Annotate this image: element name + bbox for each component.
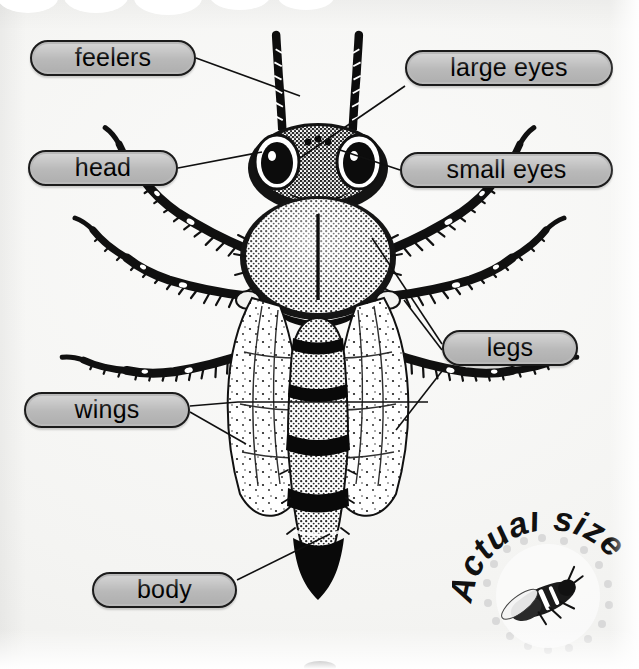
label-feelers[interactable]: feelers	[30, 40, 196, 76]
label-large-eyes-text: large eyes	[450, 55, 567, 80]
bee-diagram-page: feelers head large eyes small eyes legs …	[0, 0, 639, 669]
label-small-eyes[interactable]: small eyes	[400, 152, 613, 188]
leader-small-eyes	[340, 150, 400, 170]
right-edge-highlight	[609, 0, 639, 669]
leader-head	[178, 152, 262, 168]
leader-large-eyes	[300, 86, 405, 158]
label-legs-text: legs	[487, 335, 534, 360]
leader-wings-a	[190, 402, 428, 406]
label-body-text: body	[137, 577, 192, 602]
label-wings[interactable]: wings	[24, 392, 190, 428]
leader-legs-a	[372, 238, 442, 344]
label-head-text: head	[75, 155, 131, 180]
label-legs[interactable]: legs	[442, 330, 578, 366]
leader-wings-b	[190, 412, 246, 444]
label-feelers-text: feelers	[75, 45, 151, 70]
leader-legs-c	[396, 366, 446, 430]
leader-body	[237, 534, 330, 580]
leader-legs-b	[404, 300, 442, 350]
bottom-edge-highlight	[0, 629, 639, 669]
label-small-eyes-text: small eyes	[446, 157, 566, 182]
label-large-eyes[interactable]: large eyes	[405, 50, 613, 86]
leader-feelers	[196, 58, 300, 96]
label-body[interactable]: body	[92, 572, 237, 608]
label-wings-text: wings	[75, 397, 140, 422]
label-head[interactable]: head	[28, 150, 178, 186]
